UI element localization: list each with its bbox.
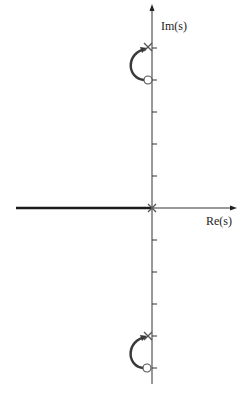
arrowhead-icon	[150, 4, 155, 11]
real-axis-label: Re(s)	[206, 214, 232, 229]
root-locus-diagram	[0, 0, 243, 403]
imag-axis-label: Im(s)	[161, 19, 187, 34]
zero-marker-lower	[143, 364, 151, 372]
pole-marker-upper	[144, 43, 152, 51]
imaginary-axis	[150, 4, 155, 384]
real-axis	[152, 206, 237, 211]
locus-branch-upper-arc	[131, 49, 146, 80]
locus-branch-lower-arc	[131, 337, 146, 368]
zero-marker-upper	[144, 76, 152, 84]
arrowhead-icon	[230, 206, 237, 211]
